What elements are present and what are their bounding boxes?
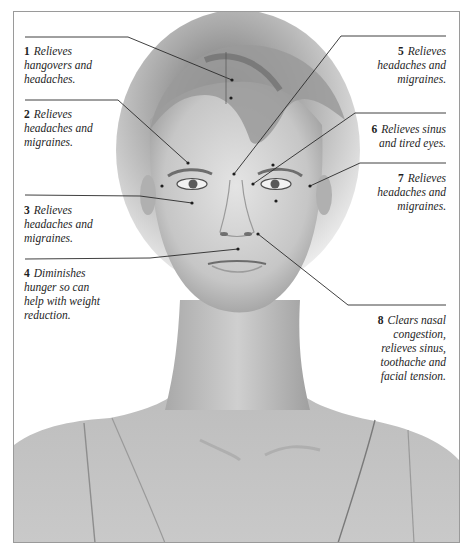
label-number: 5 (398, 45, 404, 57)
label-number: 4 (24, 267, 30, 279)
point-dot-7b (274, 199, 277, 202)
label-number: 6 (371, 123, 377, 135)
point-dot-4 (236, 247, 239, 250)
label-point-5: 5Relieves headaches and migraines. (377, 44, 446, 86)
label-point-6: 6Relieves sinus and tired eyes. (371, 122, 446, 150)
label-point-7: 7Relieves headaches and migraines. (377, 171, 446, 213)
point-dot-3 (190, 201, 193, 204)
label-point-2: 2Relieves headaches and migraines. (24, 107, 93, 149)
point-dot-1 (230, 78, 233, 81)
label-point-8: 8Clears nasal congestion, relieves sinus… (378, 313, 446, 383)
label-number: 7 (398, 172, 404, 184)
label-point-1: 1Relieves hangovers and headaches. (24, 44, 92, 86)
label-number: 2 (24, 108, 30, 120)
label-point-3: 3Relieves headaches and migraines. (24, 203, 93, 245)
point-dot-8 (256, 232, 259, 235)
point-dot-6 (251, 182, 254, 185)
label-number: 3 (24, 204, 30, 216)
label-point-4: 4Diminishes hunger so can help with weig… (24, 266, 100, 322)
point-dot-2 (186, 161, 189, 164)
point-dot-7 (308, 184, 311, 187)
point-dot-6b (271, 163, 274, 166)
label-number: 8 (378, 314, 384, 326)
point-dot-2b (160, 184, 163, 187)
point-dot-5 (232, 172, 235, 175)
point-dot-1b (229, 96, 232, 99)
label-number: 1 (24, 45, 30, 57)
